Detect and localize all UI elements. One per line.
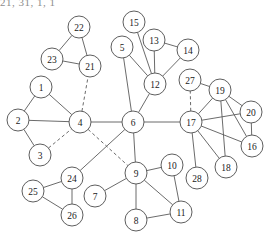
graph-node-label-12: 12 — [150, 80, 160, 90]
graph-edge-17-19 — [198, 98, 212, 114]
graph-node-5[interactable]: 5 — [111, 36, 133, 58]
graph-edge-19-18 — [221, 101, 225, 156]
graph-node-13[interactable]: 13 — [143, 29, 165, 51]
graph-node-23[interactable]: 23 — [41, 48, 63, 70]
graph-edge-24-25 — [43, 181, 61, 187]
graph-node-label-19: 19 — [215, 86, 225, 96]
network-graph-canvas: 1234567891011121314151617181920212223242… — [0, 0, 269, 232]
graph-node-label-2: 2 — [16, 116, 21, 126]
graph-node-10[interactable]: 10 — [161, 154, 183, 176]
graph-node-label-24: 24 — [67, 174, 77, 184]
graph-node-label-25: 25 — [28, 187, 38, 197]
graph-node-label-20: 20 — [246, 108, 256, 118]
graph-edge-6-12 — [139, 94, 150, 113]
graph-node-label-11: 11 — [176, 208, 185, 218]
graph-node-label-14: 14 — [183, 46, 193, 56]
graph-edge-19-27 — [200, 83, 209, 86]
graph-edge-4-9 — [88, 129, 128, 165]
graph-edge-9-10 — [147, 167, 162, 170]
graph-edge-12-13 — [154, 51, 155, 73]
graph-edge-9-11 — [144, 180, 172, 205]
graph-node-24[interactable]: 24 — [61, 167, 83, 189]
graph-edge-2-3 — [24, 129, 34, 145]
graph-node-9[interactable]: 9 — [125, 162, 147, 184]
graph-node-17[interactable]: 17 — [180, 111, 202, 133]
graph-edge-2-4 — [29, 120, 69, 121]
graph-node-label-21: 21 — [85, 62, 95, 72]
graph-node-11[interactable]: 11 — [170, 201, 192, 223]
graph-edge-1-2 — [24, 96, 34, 111]
graph-node-25[interactable]: 25 — [22, 180, 44, 202]
graph-node-label-27: 27 — [185, 76, 195, 86]
graph-node-19[interactable]: 19 — [209, 79, 231, 101]
graph-edge-17-16 — [201, 126, 242, 142]
graph-edge-17-18 — [198, 131, 220, 159]
graph-node-label-7: 7 — [93, 192, 98, 202]
network-graph-figure: 21, 31, 1, 1 ... 12345678910111213141516… — [0, 0, 269, 232]
graph-node-1[interactable]: 1 — [30, 76, 52, 98]
graph-node-label-28: 28 — [192, 174, 202, 184]
graph-node-6[interactable]: 6 — [122, 111, 144, 133]
graph-node-20[interactable]: 20 — [240, 101, 262, 123]
graph-edge-13-14 — [165, 43, 178, 47]
graph-node-label-26: 26 — [67, 211, 77, 221]
graph-edge-6-9 — [134, 133, 136, 162]
graph-node-12[interactable]: 12 — [144, 73, 166, 95]
graph-edge-22-23 — [59, 35, 72, 50]
graph-node-label-22: 22 — [74, 23, 84, 33]
graph-node-3[interactable]: 3 — [29, 144, 51, 166]
graph-edge-19-20 — [229, 96, 242, 105]
graph-node-8[interactable]: 8 — [125, 209, 147, 231]
graph-node-label-5: 5 — [120, 43, 125, 53]
graph-edge-7-9 — [105, 178, 127, 190]
graph-node-label-8: 8 — [134, 216, 139, 226]
graph-node-2[interactable]: 2 — [7, 109, 29, 131]
graph-node-label-1: 1 — [39, 83, 44, 93]
graph-node-7[interactable]: 7 — [84, 185, 106, 207]
graph-node-label-16: 16 — [247, 142, 257, 152]
graph-node-21[interactable]: 21 — [79, 55, 101, 77]
graph-node-27[interactable]: 27 — [179, 69, 201, 91]
graph-node-26[interactable]: 26 — [61, 204, 83, 226]
graph-node-label-15: 15 — [129, 18, 139, 28]
graph-node-label-9: 9 — [134, 169, 139, 179]
graph-node-18[interactable]: 18 — [215, 156, 237, 178]
graph-edge-8-11 — [147, 214, 170, 218]
graph-node-label-4: 4 — [78, 118, 83, 128]
graph-edge-21-23 — [63, 61, 79, 64]
graph-node-label-10: 10 — [167, 161, 177, 171]
graph-edge-21-22 — [82, 38, 87, 56]
graph-edge-6-24 — [80, 129, 125, 170]
graph-node-label-18: 18 — [221, 163, 231, 173]
graph-node-4[interactable]: 4 — [69, 111, 91, 133]
graph-node-15[interactable]: 15 — [123, 11, 145, 33]
graph-edge-1-4 — [49, 94, 72, 114]
graph-edge-5-12 — [129, 55, 147, 76]
graph-node-label-13: 13 — [149, 36, 159, 46]
graph-edge-25-26 — [42, 197, 62, 209]
graph-edge-4-21 — [82, 77, 88, 111]
graph-node-label-6: 6 — [131, 118, 136, 128]
graph-node-label-17: 17 — [186, 118, 196, 128]
graph-node-16[interactable]: 16 — [241, 135, 263, 157]
graph-edge-12-14 — [163, 58, 181, 76]
graph-edge-3-4 — [48, 129, 71, 148]
graph-edge-10-11 — [174, 176, 179, 201]
graph-node-14[interactable]: 14 — [177, 39, 199, 61]
graph-edge-5-6 — [124, 58, 132, 111]
graph-node-22[interactable]: 22 — [68, 16, 90, 38]
graph-edge-17-28 — [192, 133, 196, 167]
graph-node-label-3: 3 — [38, 151, 43, 161]
graph-node-label-23: 23 — [47, 55, 57, 65]
graph-node-28[interactable]: 28 — [186, 167, 208, 189]
